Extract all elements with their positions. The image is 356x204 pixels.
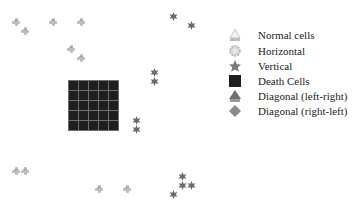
death-cell-icon — [228, 74, 242, 88]
death-cell — [89, 101, 98, 110]
death-cell — [69, 111, 78, 120]
normal-cell-icon — [49, 18, 57, 26]
legend-label: Diagonal (left-right) — [258, 89, 348, 103]
death-cell — [109, 91, 118, 100]
vertical-star-icon — [150, 72, 159, 81]
normal-cell-icon — [12, 18, 20, 26]
normal-cell-icon — [77, 54, 85, 62]
death-cell — [79, 111, 88, 120]
normal-cell-icon — [12, 167, 20, 175]
vertical-star-icon — [178, 176, 187, 185]
death-cell — [109, 101, 118, 110]
legend-label: Diagonal (right-left) — [258, 104, 348, 118]
normal-cell-icon — [95, 185, 103, 193]
legend-item-vertical: Vertical — [228, 59, 242, 73]
death-cell — [109, 111, 118, 120]
normal-cell-icon — [228, 28, 242, 42]
normal-cell-icon — [77, 18, 85, 26]
legend-label: Vertical — [258, 59, 292, 73]
vertical-star-icon — [178, 167, 187, 176]
normal-cell-icon — [21, 167, 29, 175]
legend-item-diagonal-rl: Diagonal (right-left) — [228, 104, 242, 118]
vertical-star-icon — [132, 120, 141, 129]
vertical-star-icon — [150, 63, 159, 72]
death-cell — [69, 101, 78, 110]
legend-label: Horizontal — [258, 44, 305, 58]
legend-item-horizontal: Horizontal — [228, 44, 242, 58]
death-cells-grid — [68, 80, 119, 131]
vertical-star-icon — [228, 59, 242, 73]
death-cell — [89, 121, 98, 130]
legend-label: Death Cells — [258, 74, 310, 88]
death-cell — [99, 91, 108, 100]
diagonal-left-right-icon — [228, 89, 242, 103]
legend-item-normal: Normal cells — [228, 28, 242, 42]
vertical-star-icon — [132, 111, 141, 120]
death-cell — [99, 101, 108, 110]
vertical-star-icon — [169, 7, 178, 16]
normal-cell-icon — [21, 27, 29, 35]
death-cell — [89, 91, 98, 100]
death-cell — [79, 91, 88, 100]
death-cell — [99, 81, 108, 90]
legend-label: Normal cells — [258, 28, 315, 42]
death-cell — [99, 121, 108, 130]
normal-cell-icon — [67, 45, 75, 53]
death-cell — [89, 111, 98, 120]
death-cell — [109, 121, 118, 130]
normal-cell-icon — [123, 185, 131, 193]
vertical-star-icon — [187, 176, 196, 185]
death-cell — [79, 121, 88, 130]
death-cell — [69, 91, 78, 100]
legend-item-death: Death Cells — [228, 74, 242, 88]
diagonal-right-left-icon — [228, 104, 242, 118]
legend-item-diagonal-lr: Diagonal (left-right) — [228, 89, 242, 103]
death-cell — [69, 121, 78, 130]
death-cell — [79, 101, 88, 110]
death-cell — [99, 111, 108, 120]
death-cell — [89, 81, 98, 90]
vertical-star-icon — [169, 185, 178, 194]
horizontal-icon — [228, 44, 242, 58]
death-cell — [69, 81, 78, 90]
death-cell — [109, 81, 118, 90]
vertical-star-icon — [187, 16, 196, 25]
death-cell — [79, 81, 88, 90]
